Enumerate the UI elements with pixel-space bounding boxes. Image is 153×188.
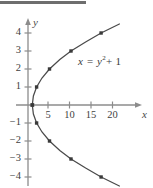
data-point [69,157,72,160]
equation-annotation: x = y2+ 1 [78,55,121,67]
y-tick-label-neg1: −1 [5,116,21,127]
y-tick-label-2: 2 [11,62,21,73]
y-tick-label-3: 3 [11,44,21,55]
data-point [30,103,34,107]
y-tick-label-neg3: −3 [5,152,21,163]
x-axis [16,102,142,108]
x-tick-label-10: 10 [61,109,78,120]
data-point [48,67,51,70]
data-point [99,175,102,178]
x-tick-label-15: 15 [83,109,100,120]
y-tick-label-1: 1 [11,80,21,91]
y-axis-label: y [33,16,38,28]
y-axis [25,18,31,186]
equation-tail: + 1 [106,55,121,67]
data-point [35,85,38,88]
data-point [99,31,102,34]
data-point [35,121,38,124]
x-axis-label: x [142,108,147,120]
parabola-figure: y x 5 10 15 20 4 3 2 1 −1 −2 −3 −4 x = y… [0,0,153,188]
data-point [69,49,72,52]
y-tick-label-neg4: −4 [5,170,21,181]
x-tick-label-5: 5 [42,109,54,120]
y-tick-label-neg2: −2 [5,134,21,145]
data-point [48,139,51,142]
x-tick-label-20: 20 [104,109,121,120]
plot-canvas [0,0,153,188]
equation-main: x = y [78,55,102,67]
y-tick-label-4: 4 [11,26,21,37]
